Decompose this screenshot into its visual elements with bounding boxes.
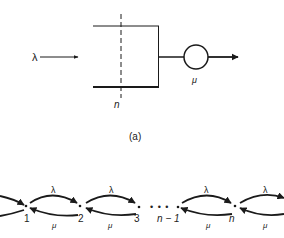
mu-label-2: μ xyxy=(107,221,113,230)
queue-diagram: λ n μ (a) xyxy=(0,0,284,238)
server-circle-icon xyxy=(184,45,208,69)
state-transition-chain xyxy=(0,195,284,216)
lambda-label-4: λ xyxy=(263,185,268,195)
arrow-mu-n-nminus1 xyxy=(181,208,232,215)
arrow-mu-1-0 xyxy=(0,210,24,216)
arrow-lambda-1-2 xyxy=(30,196,77,204)
mu-label-4: μ xyxy=(262,221,268,230)
state-label-nminus1: n − 1 xyxy=(157,213,180,224)
state-dot-3 xyxy=(138,206,141,209)
arrow-mu-next-n xyxy=(240,208,284,215)
state-dot-nminus1 xyxy=(177,206,180,209)
queue-system: λ n μ (a) xyxy=(32,14,238,142)
arrival-rate-label: λ xyxy=(32,51,38,63)
arrow-lambda-nminus1-n xyxy=(182,196,231,204)
state-label-3: 3 xyxy=(134,213,140,224)
arrow-lambda-2-3 xyxy=(86,196,135,204)
lambda-label-3: λ xyxy=(204,185,209,195)
state-dot-2 xyxy=(79,205,82,208)
chain-ellipsis: • • • xyxy=(150,202,169,212)
state-dots xyxy=(25,205,237,209)
arrow-mu-2-1 xyxy=(30,208,78,216)
lambda-label-2: λ xyxy=(109,185,114,195)
arrow-mu-3-2 xyxy=(86,208,136,215)
mu-label-1: μ xyxy=(51,221,57,230)
state-dot-1 xyxy=(25,205,28,208)
mu-label-3: μ xyxy=(205,221,211,230)
state-label-1: 1 xyxy=(24,213,30,224)
lambda-label-1: λ xyxy=(51,185,56,195)
service-rate-label: μ xyxy=(191,75,197,85)
state-dot-n xyxy=(234,205,237,208)
capacity-label: n xyxy=(114,99,120,110)
arrow-lambda-0-1 xyxy=(0,196,24,205)
arrow-lambda-n-next xyxy=(240,195,284,203)
state-label-n: n xyxy=(229,213,235,224)
subfigure-caption: (a) xyxy=(129,131,141,142)
state-label-2: 2 xyxy=(78,213,84,224)
